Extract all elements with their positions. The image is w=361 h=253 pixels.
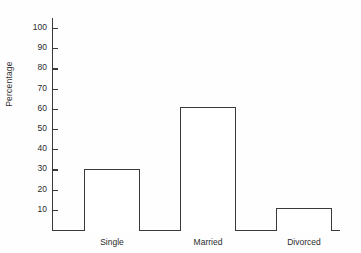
bar	[84, 169, 140, 231]
y-axis-title: Percentage	[4, 44, 14, 124]
y-axis-tick-mark	[52, 48, 58, 49]
x-axis-category-label: Married	[160, 236, 256, 248]
plot-area: 102030405060708090100 SingleMarriedDivor…	[52, 18, 340, 231]
y-axis-tick-label: 30	[38, 163, 47, 174]
y-axis-tick-mark	[52, 149, 58, 150]
y-axis-tick-label: 80	[38, 62, 47, 73]
y-axis-tick-mark	[52, 190, 58, 191]
y-axis-tick-label: 70	[38, 83, 47, 94]
bar	[180, 107, 236, 231]
y-axis-tick-label: 10	[38, 204, 47, 215]
y-axis-tick-mark	[52, 109, 58, 110]
y-axis-tick-mark	[52, 169, 58, 170]
x-axis-category-label: Single	[64, 236, 160, 248]
y-axis-tick-label: 90	[38, 42, 47, 53]
x-axis-category-label: Divorced	[256, 236, 352, 248]
y-axis-line	[52, 18, 53, 231]
y-axis-tick-mark	[52, 68, 58, 69]
y-axis-tick-mark	[52, 89, 58, 90]
y-axis-tick-label: 50	[38, 123, 47, 134]
y-axis-tick-mark	[52, 28, 58, 29]
y-axis-tick-label: 20	[38, 184, 47, 195]
y-axis-tick-label: 60	[38, 103, 47, 114]
bar	[276, 208, 332, 232]
y-axis-tick-label: 40	[38, 143, 47, 154]
bar-chart: Percentage 102030405060708090100 SingleM…	[0, 0, 361, 253]
y-axis-tick-label: 100	[33, 22, 47, 33]
y-axis-tick-mark	[52, 210, 58, 211]
y-axis-tick-mark	[52, 129, 58, 130]
